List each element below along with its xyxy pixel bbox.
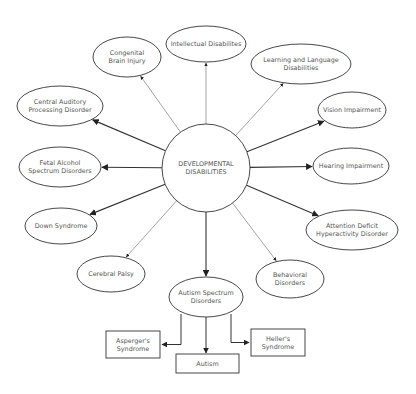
developmental-disabilities-label-line: DISABILITIES xyxy=(178,168,233,176)
aspergers-syndrome-label-line: Asperger's xyxy=(116,336,150,344)
fetal-alcohol-spectrum-disorders-label-line: Fetal Alcohol xyxy=(28,159,91,167)
learning-language-disabilities-label-line: Learning and Language xyxy=(263,56,338,64)
learning-language-disabilities-label-line: Disabilities xyxy=(263,64,338,72)
edge-congenital-brain-injury xyxy=(141,76,181,132)
developmental-disabilities-label: DEVELOPMENTALDISABILITIES xyxy=(178,160,233,176)
fetal-alcohol-spectrum-disorders-label-line: Spectrum Disorders xyxy=(28,167,91,175)
congenital-brain-injury-label-line: Congenital xyxy=(109,49,146,57)
central-auditory-processing-disorder-label: Central AuditoryProcessing Disorder xyxy=(28,98,91,114)
autism-spectrum-disorders-label-line: Autism Spectrum xyxy=(178,289,233,297)
autism-label: Autism xyxy=(196,359,218,367)
adhd-label-line: Attention Deficit xyxy=(316,222,388,230)
edge-learning-language-disabilities xyxy=(236,84,283,136)
developmental-disabilities-diagram xyxy=(0,0,416,394)
aspergers-syndrome-label-line: Syndrome xyxy=(116,345,150,353)
behavioral-disorders-label-line: Behavioral xyxy=(273,271,307,279)
hellers-syndrome-label-line: Heller's xyxy=(262,334,295,342)
edge-hellers-syndrome xyxy=(231,314,249,343)
intellectual-disabilities-label: Intellectual Disabilites xyxy=(171,40,242,48)
shapes-layer xyxy=(17,26,398,373)
edge-adhd xyxy=(246,185,318,215)
behavioral-disorders-label: BehavioralDisorders xyxy=(273,271,307,287)
edge-down-syndrome xyxy=(90,184,165,214)
adhd-label-line: Hyperactivity Disorder xyxy=(316,230,388,238)
edge-vision-impairment xyxy=(247,121,324,152)
fetal-alcohol-spectrum-disorders-label: Fetal AlcoholSpectrum Disorders xyxy=(28,159,91,175)
cerebral-palsy-label: Cerebral Palsy xyxy=(88,270,134,278)
central-auditory-processing-disorder-label-line: Processing Disorder xyxy=(28,106,91,114)
edge-aspergers-syndrome xyxy=(162,314,181,345)
edge-behavioral-disorders xyxy=(233,203,277,261)
congenital-brain-injury-label-line: Brain Injury xyxy=(109,57,146,65)
autism-spectrum-disorders-label: Autism SpectrumDisorders xyxy=(178,289,233,305)
edge-cerebral-palsy xyxy=(126,201,176,257)
intellectual-disabilities-label-line: Intellectual Disabilites xyxy=(171,40,242,48)
developmental-disabilities-label-line: DEVELOPMENTAL xyxy=(178,160,233,168)
central-auditory-processing-disorder-label-line: Central Auditory xyxy=(28,98,91,106)
vision-impairment-label-line: Vision Impairment xyxy=(323,106,381,114)
cerebral-palsy-label-line: Cerebral Palsy xyxy=(88,270,134,278)
down-syndrome-label-line: Down Syndrome xyxy=(35,222,88,230)
edge-hearing-impairment xyxy=(250,167,312,168)
down-syndrome-label: Down Syndrome xyxy=(35,222,88,230)
autism-spectrum-disorders-label-line: Disorders xyxy=(178,297,233,305)
vision-impairment-label: Vision Impairment xyxy=(323,106,381,114)
behavioral-disorders-label-line: Disorders xyxy=(273,279,307,287)
hellers-syndrome-label-line: Syndrome xyxy=(262,343,295,351)
learning-language-disabilities-label: Learning and LanguageDisabilities xyxy=(263,56,338,72)
hearing-impairment-label-line: Hearing Impairment xyxy=(319,162,383,170)
autism-label-line: Autism xyxy=(196,359,218,367)
adhd-label: Attention DeficitHyperactivity Disorder xyxy=(316,222,388,238)
edge-central-auditory-processing-disorder xyxy=(93,120,166,151)
congenital-brain-injury-label: CongenitalBrain Injury xyxy=(109,49,146,65)
hellers-syndrome-label: Heller'sSyndrome xyxy=(262,334,295,350)
hearing-impairment-label: Hearing Impairment xyxy=(319,162,383,170)
aspergers-syndrome-label: Asperger'sSyndrome xyxy=(116,336,150,352)
